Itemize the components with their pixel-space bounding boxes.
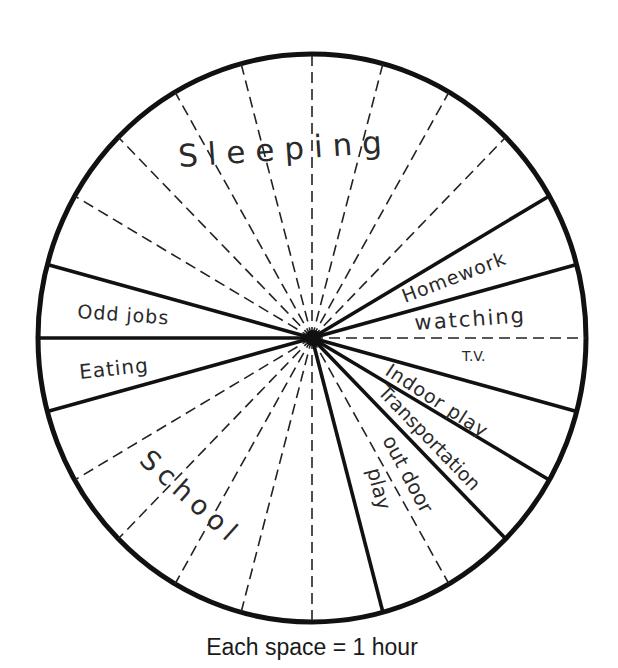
- pie-chart: Sleeping Homework watching T.V. Indoor p…: [0, 0, 618, 668]
- label-tv: T.V.: [461, 348, 486, 364]
- chart-caption: Each space = 1 hour: [206, 634, 418, 660]
- chart-hub: [305, 330, 321, 346]
